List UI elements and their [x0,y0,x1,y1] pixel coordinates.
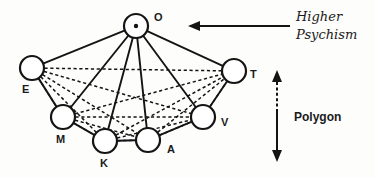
node-t[interactable] [222,59,246,83]
radial-edge-O-E [42,30,125,64]
perimeter-edge-V-T [209,80,227,107]
node-label-a: A [167,143,175,155]
higher-psychism-arrow [188,21,290,31]
higher-psychism-label-line1: Higher [295,9,343,24]
node-group [20,14,246,153]
perimeter-edge-M-K [73,123,95,136]
mesh-edge-E-T [45,68,222,71]
diagram-canvas: OEMKAVT Higher Psychism Polygon [0,0,375,178]
node-e[interactable] [20,56,44,80]
radial-edge-O-A [137,37,147,129]
radial-edge-O-V [143,35,197,108]
radial-edge-O-T [146,31,224,67]
node-v[interactable] [191,105,215,129]
node-label-k: K [100,157,108,169]
node-o-center-dot [134,24,138,28]
mesh-edge-group [39,68,227,141]
node-label-o: O [154,11,163,23]
node-a[interactable] [136,128,160,152]
node-label-v: V [221,116,229,128]
higher-psychism-label-line2: Psychism [295,27,357,42]
node-label-m: M [56,133,65,145]
node-label-t: T [250,68,257,80]
polygon-label: Polygon [294,110,341,124]
radial-edge-O-M [70,35,129,109]
mesh-edge-A-T [158,79,225,132]
polygon-arrow [272,70,282,162]
diagram-svg: OEMKAVT Higher Psychism Polygon [0,0,375,178]
node-m[interactable] [51,105,75,129]
node-k[interactable] [93,129,117,153]
node-label-e: E [22,83,29,95]
radial-edge-O-K [108,37,133,130]
